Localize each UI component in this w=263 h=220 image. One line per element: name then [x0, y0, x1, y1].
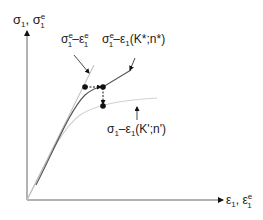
arrow-curve1-label [74, 55, 89, 73]
stress-strain-diagram: σ1, σe1 ε1, εe1 σe1–εe1 σe1–ε1(K*;n*) σ1… [0, 0, 263, 220]
point-neuber [100, 84, 106, 90]
label-elastic-curve: σe1–εe1 [61, 31, 89, 49]
arrow-curve2-label [130, 58, 135, 70]
x-axis-label: ε1, εe1 [226, 192, 253, 210]
point-cyclic [100, 103, 106, 109]
label-neuber-curve: σe1–ε1(K*;n*) [102, 31, 165, 49]
y-axis-label: σ1, σe1 [13, 12, 46, 30]
cyclic-stress-strain-curve [27, 98, 157, 200]
label-cyclic-curve: σ1–ε1(K';n') [107, 122, 166, 138]
point-elastic [82, 84, 88, 90]
